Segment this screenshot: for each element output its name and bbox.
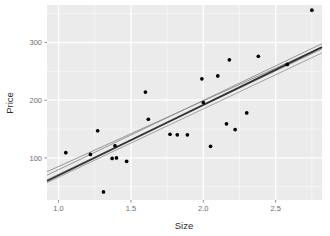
data-point [102, 190, 106, 194]
data-point [201, 101, 205, 105]
data-point [186, 133, 190, 137]
data-point [200, 77, 204, 81]
data-point [96, 129, 100, 133]
x-tick-label: 2.5 [270, 204, 280, 213]
plot-panel-background [47, 5, 322, 200]
x-tick-label: 2.0 [198, 204, 208, 213]
x-tick-label: 1.5 [126, 204, 136, 213]
data-point [64, 151, 68, 155]
data-point [175, 133, 179, 137]
x-axis-ticks: 1.01.52.02.5 [53, 200, 281, 213]
data-point [115, 156, 119, 160]
scatter-plot-figure: 1.01.52.02.5 100200300 Size Price [0, 0, 330, 236]
data-point [228, 58, 232, 62]
y-axis-ticks: 100200300 [29, 38, 47, 162]
data-point [225, 122, 229, 126]
data-point [233, 128, 237, 132]
data-point [245, 111, 249, 115]
data-point [209, 145, 213, 149]
data-point [144, 90, 148, 94]
data-point [146, 117, 150, 121]
panel-group [47, 5, 322, 200]
y-tick-label: 100 [29, 154, 42, 163]
x-axis-title: Size [175, 220, 193, 231]
data-point [310, 8, 314, 12]
data-point [256, 55, 260, 59]
data-point [168, 132, 172, 136]
data-point [89, 153, 93, 157]
y-axis-title: Price [4, 92, 15, 114]
data-point [216, 74, 220, 78]
data-point [113, 144, 117, 148]
y-tick-label: 300 [29, 38, 42, 47]
y-tick-label: 200 [29, 96, 42, 105]
data-point [110, 157, 114, 161]
data-point [285, 63, 289, 67]
chart-canvas: 1.01.52.02.5 100200300 Size Price [0, 0, 330, 236]
data-point [125, 160, 129, 164]
x-tick-label: 1.0 [53, 204, 63, 213]
